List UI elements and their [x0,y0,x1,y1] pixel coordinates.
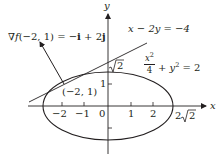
x-axis-label: x [210,101,216,111]
x-tick-label-neg1: −1 [75,109,90,119]
y-axis-label: y [104,1,110,11]
gradient-ellipse-diagram: ∇f(−2, 1) = −i + 2j y x x − 2y = −4 x2 4… [0,0,219,155]
nabla-symbol: ∇ [8,31,15,42]
tangent-point-label: (−2, 1) [62,87,97,97]
x-intercept-prefix: 2 [175,111,181,121]
gradient-vector-arrow [40,42,64,84]
gradient-label: ∇f(−2, 1) = −i + 2j [8,32,106,42]
x-intercept-radicand: 2 [189,111,195,121]
ellipse-equation-fraction: x2 4 [144,52,155,74]
ellipse-equation-rest: + y2 = 2 [158,62,200,73]
y-tick-label-1: 1 [100,79,106,89]
y-intercept-label: 2 [117,61,123,71]
x-tick-label-2: 2 [150,109,156,119]
x-tick-label-0: 0 [99,109,105,119]
x-tick-label-1: 1 [128,109,134,119]
x-tick-label-neg2: −2 [52,109,67,119]
x-ticks [62,102,153,106]
tangent-line-equation: x − 2y = −4 [128,24,190,34]
